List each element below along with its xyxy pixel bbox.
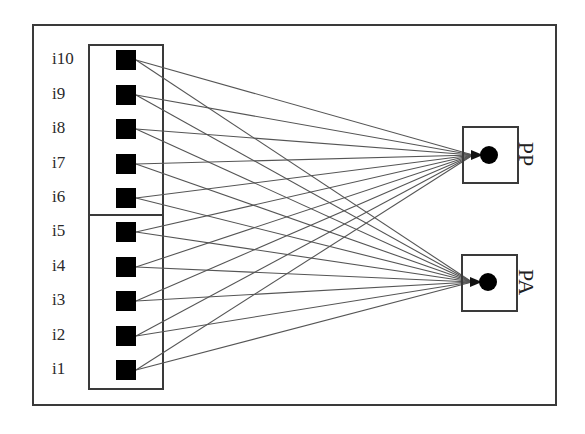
edge-i7-PA — [136, 164, 472, 282]
input-node-i3 — [116, 291, 136, 311]
edge-i9-PA — [136, 95, 472, 282]
input-label-i5: i5 — [52, 221, 88, 241]
input-label-i9: i9 — [52, 84, 88, 104]
input-label-i1: i1 — [52, 359, 88, 379]
input-label-i7: i7 — [52, 153, 88, 173]
output-label-pa: PA — [514, 262, 538, 302]
edge-i9-PP — [136, 95, 473, 155]
edge-i8-PP — [136, 129, 473, 155]
input-label-i4: i4 — [52, 256, 88, 276]
edge-i1-PA — [136, 282, 472, 370]
input-label-i6: i6 — [52, 187, 88, 207]
output-label-pp: PP — [514, 134, 538, 174]
input-node-i9 — [116, 85, 136, 105]
edge-i7-PP — [136, 155, 473, 164]
input-label-i3: i3 — [52, 290, 88, 310]
edge-i10-PA — [136, 60, 472, 282]
edge-i10-PP — [136, 60, 473, 155]
input-node-i10 — [116, 50, 136, 70]
output-box-pa — [461, 254, 518, 312]
input-node-i5 — [116, 222, 136, 242]
input-node-i7 — [116, 154, 136, 174]
input-node-i4 — [116, 257, 136, 277]
edge-i3-PA — [136, 282, 472, 301]
input-node-i2 — [116, 326, 136, 346]
edge-i8-PA — [136, 129, 472, 282]
input-label-i10: i10 — [52, 49, 88, 69]
edge-i1-PP — [136, 155, 473, 370]
diagram-canvas: i10i9i8i7i6i5i4i3i2i1 PP PA — [0, 0, 585, 434]
input-node-i6 — [116, 188, 136, 208]
input-node-i8 — [116, 119, 136, 139]
edge-i5-PP — [136, 155, 473, 232]
input-label-i2: i2 — [52, 325, 88, 345]
input-label-i8: i8 — [52, 118, 88, 138]
output-box-pp — [462, 126, 519, 184]
input-node-i1 — [116, 360, 136, 380]
